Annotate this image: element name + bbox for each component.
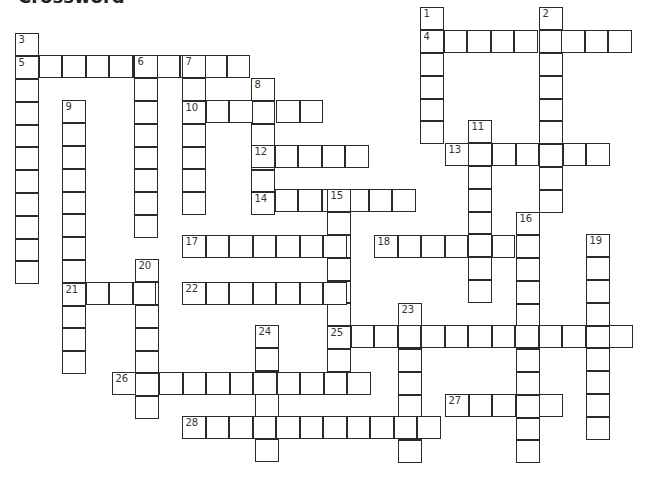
crossword-cell[interactable]: 1	[420, 7, 444, 30]
crossword-cell[interactable]: 12	[251, 145, 275, 168]
crossword-cell[interactable]	[492, 235, 516, 258]
crossword-cell[interactable]	[62, 55, 86, 78]
crossword-cell[interactable]	[516, 281, 540, 304]
crossword-cell[interactable]	[539, 121, 563, 144]
crossword-cell[interactable]	[563, 143, 587, 166]
crossword-cell[interactable]	[351, 325, 375, 348]
crossword-cell[interactable]: 22	[182, 282, 206, 305]
crossword-cell[interactable]: 9	[62, 100, 86, 123]
crossword-cell[interactable]	[468, 143, 492, 166]
crossword-cell[interactable]	[255, 439, 279, 462]
crossword-cell[interactable]	[275, 145, 299, 168]
crossword-cell[interactable]	[539, 76, 563, 99]
crossword-cell[interactable]	[516, 418, 540, 441]
crossword-cell[interactable]	[420, 121, 444, 144]
crossword-cell[interactable]	[255, 394, 279, 417]
crossword-cell[interactable]	[156, 55, 180, 78]
crossword-cell[interactable]	[134, 78, 158, 101]
crossword-cell[interactable]	[398, 372, 422, 395]
crossword-cell[interactable]	[492, 143, 516, 166]
crossword-cell[interactable]	[182, 192, 206, 215]
crossword-cell[interactable]	[515, 325, 539, 348]
crossword-cell[interactable]	[374, 325, 398, 348]
crossword-cell[interactable]	[135, 351, 159, 374]
crossword-cell[interactable]	[15, 147, 39, 170]
crossword-cell[interactable]	[62, 328, 86, 351]
crossword-cell[interactable]	[539, 394, 563, 417]
crossword-cell[interactable]	[516, 235, 540, 258]
crossword-cell[interactable]	[15, 216, 39, 239]
crossword-cell[interactable]	[370, 416, 394, 439]
crossword-cell[interactable]	[182, 169, 206, 192]
crossword-cell[interactable]	[327, 258, 351, 281]
crossword-cell[interactable]	[276, 100, 300, 123]
crossword-cell[interactable]	[251, 124, 275, 147]
crossword-cell[interactable]	[62, 169, 86, 192]
crossword-cell[interactable]	[182, 124, 206, 147]
crossword-cell[interactable]	[134, 169, 158, 192]
crossword-cell[interactable]	[586, 417, 610, 440]
crossword-cell[interactable]	[467, 30, 491, 53]
crossword-cell[interactable]	[561, 30, 585, 53]
crossword-cell[interactable]	[586, 280, 610, 303]
crossword-cell[interactable]	[62, 192, 86, 215]
crossword-cell[interactable]	[586, 257, 610, 280]
crossword-cell[interactable]	[159, 372, 183, 395]
crossword-cell[interactable]	[229, 100, 253, 123]
crossword-cell[interactable]	[492, 325, 516, 348]
crossword-cell[interactable]: 28	[182, 416, 206, 439]
crossword-cell[interactable]	[417, 416, 441, 439]
crossword-cell[interactable]	[539, 325, 563, 348]
crossword-cell[interactable]	[327, 303, 351, 326]
crossword-cell[interactable]	[516, 258, 540, 281]
crossword-cell[interactable]	[183, 372, 207, 395]
crossword-cell[interactable]: 2	[539, 7, 563, 30]
crossword-cell[interactable]	[539, 53, 563, 76]
crossword-cell[interactable]	[206, 235, 230, 258]
crossword-cell[interactable]	[86, 282, 110, 305]
crossword-cell[interactable]	[516, 143, 540, 166]
crossword-cell[interactable]	[468, 280, 492, 303]
crossword-cell[interactable]	[468, 166, 492, 189]
crossword-cell[interactable]	[468, 212, 492, 235]
crossword-cell[interactable]	[516, 372, 540, 395]
crossword-cell[interactable]	[62, 146, 86, 169]
crossword-cell[interactable]	[609, 325, 633, 348]
crossword-cell[interactable]	[135, 373, 159, 396]
crossword-cell[interactable]	[469, 394, 493, 417]
crossword-cell[interactable]	[182, 78, 206, 101]
crossword-cell[interactable]	[394, 416, 418, 439]
crossword-cell[interactable]	[15, 125, 39, 148]
crossword-cell[interactable]	[562, 325, 586, 348]
crossword-cell[interactable]: 10	[182, 101, 206, 124]
crossword-cell[interactable]: 13	[445, 143, 469, 166]
crossword-cell[interactable]	[516, 304, 540, 327]
crossword-cell[interactable]	[586, 394, 610, 417]
crossword-cell[interactable]	[347, 372, 371, 395]
crossword-cell[interactable]	[229, 235, 253, 258]
crossword-cell[interactable]	[253, 416, 277, 439]
crossword-cell[interactable]	[86, 55, 110, 78]
crossword-cell[interactable]	[15, 193, 39, 216]
crossword-cell[interactable]	[516, 395, 540, 418]
crossword-cell[interactable]	[420, 99, 444, 122]
crossword-cell[interactable]	[230, 372, 254, 395]
crossword-cell[interactable]: 19	[586, 234, 610, 257]
crossword-cell[interactable]	[276, 235, 300, 258]
crossword-cell[interactable]	[229, 282, 253, 305]
crossword-cell[interactable]	[369, 189, 393, 212]
crossword-cell[interactable]: 3	[15, 33, 39, 56]
crossword-cell[interactable]	[444, 30, 468, 53]
crossword-cell[interactable]	[276, 416, 300, 439]
crossword-cell[interactable]	[468, 234, 492, 257]
crossword-cell[interactable]	[300, 372, 324, 395]
crossword-cell[interactable]	[62, 306, 86, 329]
crossword-cell[interactable]	[468, 325, 492, 348]
crossword-cell[interactable]	[227, 55, 251, 78]
crossword-cell[interactable]	[298, 189, 322, 212]
crossword-cell[interactable]: 15	[327, 189, 351, 212]
crossword-cell[interactable]	[586, 326, 610, 349]
crossword-cell[interactable]	[322, 145, 346, 168]
crossword-cell[interactable]	[15, 170, 39, 193]
crossword-cell[interactable]	[327, 212, 351, 235]
